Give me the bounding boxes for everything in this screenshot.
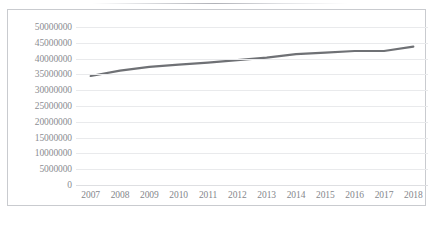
gridline [76,59,428,60]
x-axis-labels: 2007200820092010201120122013201420152016… [76,188,428,206]
y-axis-tick-label: 35000000 [35,69,72,79]
y-axis-tick-label: 50000000 [35,22,72,32]
y-axis-tick-label: 30000000 [35,85,72,95]
x-axis-tick-label: 2008 [111,190,130,200]
y-axis-tick-label: 5000000 [39,164,72,174]
y-axis-labels: 5000000045000000400000003500000030000000… [17,27,72,185]
x-axis-tick-label: 2011 [199,190,217,200]
chart-frame: 5000000045000000400000003500000030000000… [7,9,426,206]
x-axis-tick-label: 2010 [169,190,188,200]
gridline [76,138,428,139]
x-axis-tick-label: 2016 [345,190,364,200]
y-axis-tick-label: 15000000 [35,133,72,143]
series-line [91,47,414,76]
x-axis-tick-label: 2012 [228,190,247,200]
gridline [76,169,428,170]
y-axis-tick-label: 20000000 [35,117,72,127]
y-axis-tick-label: 40000000 [35,54,72,64]
gridline [76,27,428,28]
gridline [76,106,428,107]
gridline [76,90,428,91]
x-axis-tick-label: 2013 [257,190,276,200]
y-axis-tick-label: 45000000 [35,38,72,48]
x-axis-tick-label: 2014 [287,190,306,200]
gridline [76,185,428,186]
y-axis-tick-label: 0 [67,180,72,190]
x-axis-tick-label: 2017 [375,190,394,200]
gridline [76,153,428,154]
scan-artifact [92,3,348,4]
x-axis-tick-label: 2015 [316,190,335,200]
x-axis-tick-label: 2009 [140,190,159,200]
x-axis-tick-label: 2007 [81,190,100,200]
plot-area [76,27,428,185]
y-axis-tick-label: 25000000 [35,101,72,111]
gridline [76,122,428,123]
gridline [76,74,428,75]
x-axis-tick-label: 2018 [404,190,423,200]
y-axis-tick-label: 10000000 [35,148,72,158]
gridline [76,43,428,44]
chart-screenshot: 5000000045000000400000003500000030000000… [0,0,439,232]
